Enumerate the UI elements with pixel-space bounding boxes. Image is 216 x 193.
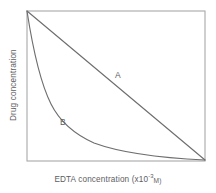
curve-b-label: B <box>60 118 66 127</box>
x-axis-label-exponent: -3 <box>148 173 153 179</box>
x-axis-label-prefix: EDTA concentration (x10 <box>54 175 148 184</box>
plot-area <box>0 0 216 193</box>
chart-figure: A B EDTA concentration (x10-3M) Drug con… <box>0 0 216 193</box>
x-axis-label-suffix: M) <box>154 177 162 184</box>
curve-a-label: A <box>115 71 121 80</box>
y-axis-label: Drug concentration <box>10 25 18 145</box>
x-axis-label: EDTA concentration (x10-3M) <box>0 173 216 184</box>
